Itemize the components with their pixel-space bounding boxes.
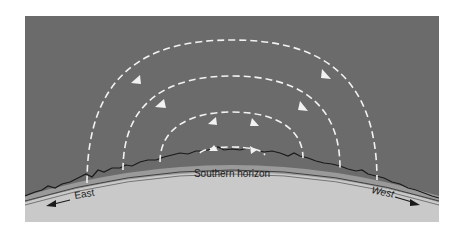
horizon-label: Southern horizon [194,168,270,179]
sun-path-diagram: Southern horizon East West [0,0,459,234]
